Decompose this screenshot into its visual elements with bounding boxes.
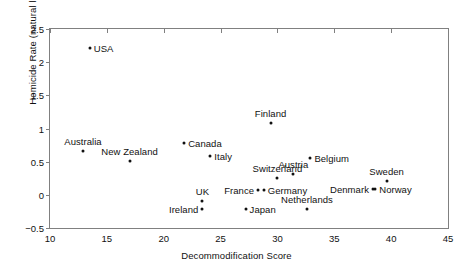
data-point-label: Ireland bbox=[169, 204, 198, 215]
data-point bbox=[269, 121, 272, 124]
y-axis-title: Homicide Rate (natural log) bbox=[27, 0, 38, 126]
data-point bbox=[292, 173, 295, 176]
data-point bbox=[209, 155, 212, 158]
plot-area: −0.500.511.522.51015202530354045USAAustr… bbox=[49, 28, 449, 229]
data-point bbox=[276, 177, 279, 180]
data-point bbox=[309, 157, 312, 160]
data-point-label: Sweden bbox=[369, 166, 404, 177]
x-tick-mark bbox=[277, 29, 278, 33]
data-point-label: UK bbox=[196, 186, 209, 197]
data-point-label: Austria bbox=[278, 159, 308, 170]
data-point-label: Norway bbox=[379, 183, 412, 194]
x-tick-label: 40 bbox=[386, 233, 397, 244]
data-point bbox=[374, 187, 377, 190]
data-point-label: Australia bbox=[64, 136, 101, 147]
x-tick-label: 25 bbox=[215, 233, 226, 244]
y-tick-mark bbox=[46, 95, 50, 96]
x-tick-mark bbox=[164, 29, 165, 33]
x-tick-label: 10 bbox=[45, 233, 56, 244]
data-point-label: Japan bbox=[250, 204, 276, 215]
data-point bbox=[305, 208, 308, 211]
data-point bbox=[201, 208, 204, 211]
data-point-label: New Zealand bbox=[101, 146, 158, 157]
y-tick-mark bbox=[46, 162, 50, 163]
x-tick-mark bbox=[50, 29, 51, 33]
data-point bbox=[183, 142, 186, 145]
data-point-label: Germany bbox=[268, 184, 307, 195]
x-tick-mark bbox=[107, 29, 108, 33]
x-tick-label: 45 bbox=[443, 233, 454, 244]
y-tick-mark bbox=[46, 129, 50, 130]
data-point-label: Finland bbox=[255, 108, 287, 119]
x-tick-mark bbox=[334, 29, 335, 33]
y-tick-mark bbox=[46, 228, 50, 229]
data-point bbox=[257, 188, 260, 191]
data-point bbox=[244, 208, 247, 211]
data-point bbox=[201, 200, 204, 203]
data-point-label: Belgium bbox=[314, 153, 349, 164]
x-tick-mark bbox=[448, 29, 449, 33]
x-tick-label: 20 bbox=[158, 233, 169, 244]
y-tick-mark bbox=[46, 195, 50, 196]
x-tick-mark bbox=[391, 29, 392, 33]
x-tick-mark bbox=[221, 29, 222, 33]
y-tick-mark bbox=[46, 62, 50, 63]
data-point bbox=[262, 188, 265, 191]
data-point-label: Denmark bbox=[330, 183, 369, 194]
data-point-label: France bbox=[224, 184, 254, 195]
x-tick-label: 15 bbox=[102, 233, 113, 244]
data-point bbox=[81, 150, 84, 153]
x-tick-label: 30 bbox=[272, 233, 283, 244]
data-point-label: Italy bbox=[214, 151, 232, 162]
data-point-label: Canada bbox=[188, 138, 222, 149]
data-point bbox=[385, 179, 388, 182]
x-axis-title: Decommodification Score bbox=[0, 250, 473, 261]
data-point-label: Netherlands bbox=[281, 194, 333, 205]
data-point-label: USA bbox=[94, 43, 114, 54]
x-tick-label: 35 bbox=[329, 233, 340, 244]
data-point bbox=[88, 47, 91, 50]
scatter-chart: Homicide Rate (natural log) Decommodific… bbox=[0, 0, 473, 272]
data-point bbox=[128, 160, 131, 163]
